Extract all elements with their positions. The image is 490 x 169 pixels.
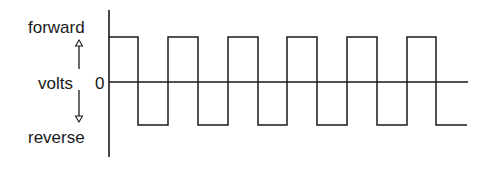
reverse-label: reverse	[28, 129, 85, 146]
forward-arrow-icon	[76, 40, 83, 69]
square-wave-diagram: forward volts 0 reverse	[0, 0, 490, 169]
square-wave	[109, 37, 467, 125]
volts-label: volts	[38, 75, 73, 92]
forward-label: forward	[28, 19, 85, 36]
reverse-arrow-icon	[76, 90, 83, 122]
zero-label: 0	[95, 75, 104, 92]
